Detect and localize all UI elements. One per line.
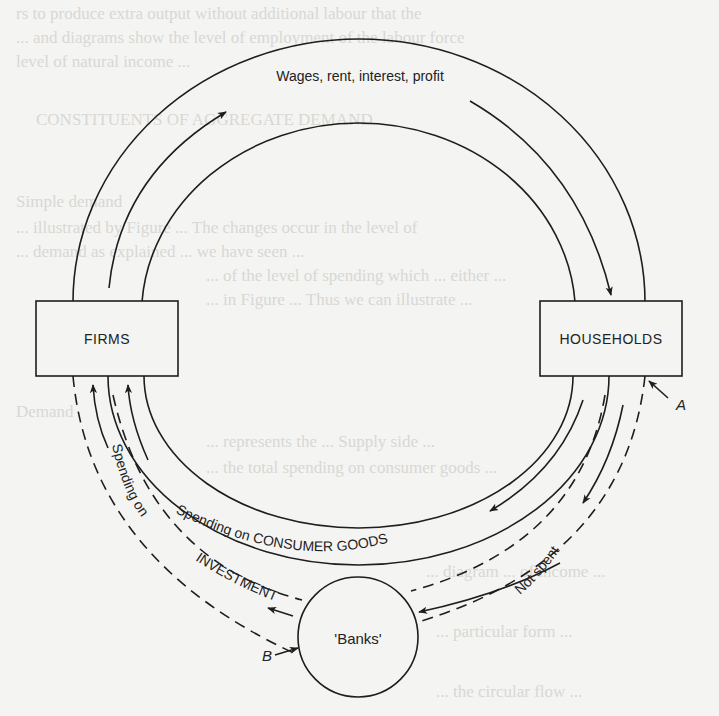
circular-flow-diagram: FIRMS HOUSEHOLDS 'Banks' Wages, rent, in… — [0, 0, 719, 716]
factor-payments-arrow-households-side — [470, 101, 611, 295]
factor-payments-arrow-firms-side — [109, 112, 226, 288]
firms-label: FIRMS — [84, 331, 130, 347]
investment-arrow-firms-side — [93, 385, 108, 448]
households-node: HOUSEHOLDS — [540, 301, 682, 376]
consumer-arrow-firms-side — [128, 385, 148, 460]
marker-a-arrow — [649, 381, 668, 398]
inner-dashed-arc-right — [411, 395, 605, 591]
investment-arrow-banks-side — [268, 608, 293, 616]
marker-a-label: A — [675, 396, 686, 413]
factor-payments-inner-arc — [142, 123, 575, 302]
banks-label: 'Banks' — [334, 630, 382, 647]
firms-node: FIRMS — [36, 301, 178, 376]
banks-node: 'Banks' — [298, 577, 418, 697]
marker-b-label: B — [262, 647, 272, 664]
households-label: HOUSEHOLDS — [559, 331, 662, 347]
consumer-inner-arc — [144, 376, 573, 528]
not-spent-label: Not spent — [511, 543, 562, 598]
consumer-arrow-households-side — [490, 400, 583, 511]
factor-payments-label: Wages, rent, interest, profit — [276, 68, 444, 84]
investment-label-main: INVESTMENT — [193, 549, 280, 604]
